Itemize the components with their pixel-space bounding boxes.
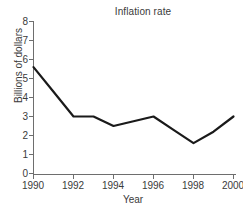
chart-figure: Inflation rate Billions of dollars Year … [0, 0, 243, 212]
y-axis-ticks [29, 22, 33, 174]
plot-area [0, 0, 243, 212]
data-series-line [34, 67, 234, 143]
x-axis-ticks [34, 175, 234, 179]
